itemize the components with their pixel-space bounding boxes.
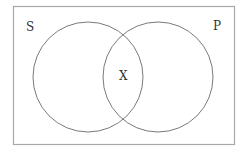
label-x-intersection: X: [119, 69, 128, 83]
label-p: P: [213, 19, 221, 33]
label-s: S: [26, 20, 34, 34]
venn-diagram: S P X: [0, 0, 242, 155]
